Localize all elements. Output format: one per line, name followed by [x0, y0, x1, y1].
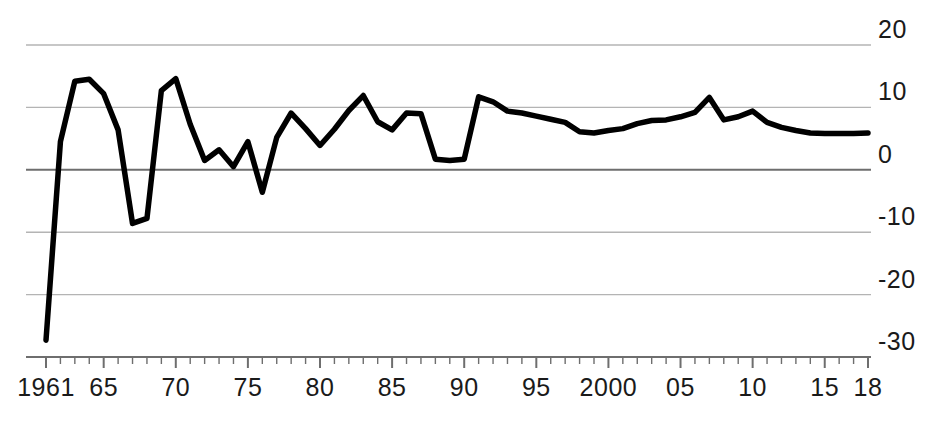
- y-tick-label--10: -10: [878, 204, 942, 229]
- x-tick-label-2010: 10: [738, 375, 767, 400]
- x-tick-label-1985: 85: [378, 375, 407, 400]
- x-tick-label-2000: 2000: [580, 375, 638, 400]
- y-tick-label--30: -30: [878, 329, 942, 354]
- x-tick-label-1995: 95: [522, 375, 551, 400]
- y-tick-label-10: 10: [878, 79, 942, 104]
- data-line-series-1: [46, 79, 868, 340]
- x-tick-label-2005: 05: [666, 375, 695, 400]
- y-tick-label-20: 20: [878, 17, 942, 42]
- x-tick-label-2018: 18: [854, 375, 883, 400]
- x-tick-label-1980: 80: [306, 375, 335, 400]
- x-axis-ticks: [46, 357, 868, 368]
- x-tick-label-1975: 75: [233, 375, 262, 400]
- x-tick-label-1990: 90: [450, 375, 479, 400]
- chart-container: 20100-10-20-30 1961657075808590952000051…: [0, 0, 942, 439]
- x-tick-label-2015: 15: [810, 375, 839, 400]
- y-tick-label--20: -20: [878, 267, 942, 292]
- y-tick-label-0: 0: [878, 142, 942, 167]
- x-tick-label-1965: 65: [89, 375, 118, 400]
- x-tick-label-1961: 1961: [17, 375, 75, 400]
- x-tick-label-1970: 70: [161, 375, 190, 400]
